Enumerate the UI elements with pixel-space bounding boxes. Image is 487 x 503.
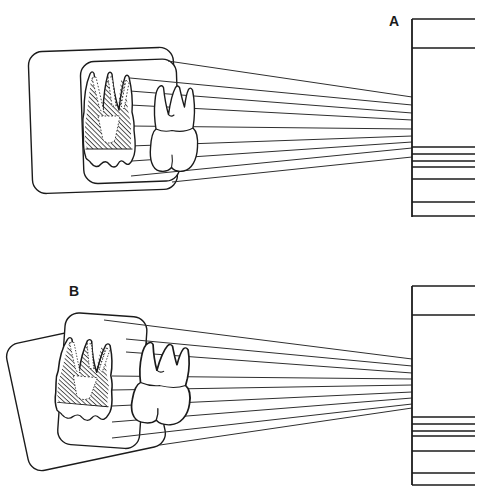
intact-molar-a — [150, 86, 197, 172]
diagram-svg: A B — [0, 0, 487, 503]
sectioned-molar-b — [53, 337, 117, 423]
sectioned-molar-a — [83, 72, 135, 167]
panel-label-a: A — [389, 13, 399, 29]
beam-line-a — [172, 157, 412, 182]
panel-b: B — [4, 283, 475, 485]
panel-a: A — [28, 13, 475, 217]
beam-line-b — [160, 408, 412, 445]
figure-canvas: A B — [0, 0, 487, 503]
panel-label-b: B — [69, 283, 79, 299]
image-receptor-b — [412, 286, 475, 485]
beam-line-a — [168, 61, 412, 97]
image-receptor-a — [412, 19, 475, 217]
